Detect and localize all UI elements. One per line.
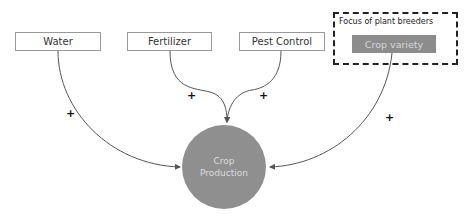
input-water-label: Water [43, 36, 73, 47]
edge-crop-variety [270, 53, 392, 167]
edge-water [58, 51, 180, 167]
input-pest-control: Pest Control [239, 32, 325, 51]
sign-fertilizer: + [187, 89, 196, 102]
sign-water: + [66, 107, 75, 120]
input-crop-variety: Crop variety [352, 35, 436, 53]
input-pest-control-label: Pest Control [252, 36, 312, 47]
input-crop-variety-label: Crop variety [365, 39, 423, 50]
crop-production-node: Crop Production [182, 125, 266, 209]
sign-crop-variety: + [385, 111, 394, 124]
input-fertilizer: Fertilizer [127, 32, 212, 51]
focus-group-label: Focus of plant breeders [339, 17, 433, 26]
sign-pest-control: + [259, 89, 268, 102]
edge-pest-control [227, 51, 281, 122]
output-line1: Crop [213, 155, 234, 167]
output-line2: Production [200, 167, 248, 179]
edge-fertilizer [170, 51, 227, 122]
input-fertilizer-label: Fertilizer [148, 36, 191, 47]
input-water: Water [15, 32, 101, 51]
